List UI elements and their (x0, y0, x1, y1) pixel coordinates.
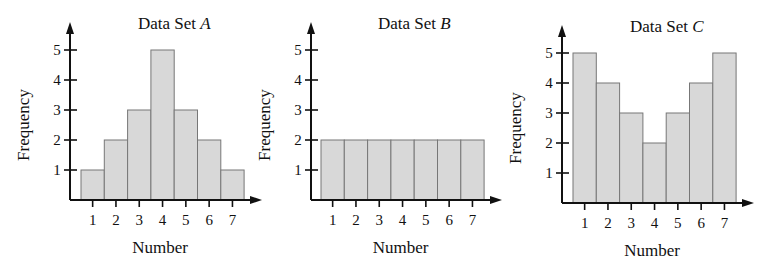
x-tick-label: 3 (136, 212, 144, 228)
bar (391, 140, 414, 200)
x-tick-label: 1 (89, 212, 97, 228)
x-tick-label: 5 (674, 215, 682, 231)
bar (596, 83, 619, 203)
x-tick-label: 5 (422, 212, 430, 228)
x-tick-label: 1 (329, 212, 337, 228)
chart-title: Data Set C (630, 17, 704, 36)
x-tick-label: 2 (112, 212, 120, 228)
chart-a: 123451234567Data Set ANumberFrequency (14, 14, 262, 257)
chart-b: 123451234567Data Set BNumberFrequency (255, 14, 502, 257)
x-tick-label: 7 (229, 212, 237, 228)
x-tick-label: 7 (469, 212, 477, 228)
bar (321, 140, 344, 200)
y-axis-label: Frequency (14, 89, 33, 161)
y-arrow-icon (558, 25, 566, 37)
histogram-panel: 123451234567Data Set ANumberFrequency123… (0, 0, 768, 268)
bar (128, 110, 151, 200)
bar (151, 50, 174, 200)
bar (713, 53, 736, 203)
bar (81, 170, 104, 200)
bar (461, 140, 484, 200)
x-axis-label: Number (132, 238, 188, 257)
y-axis-label: Frequency (506, 92, 525, 164)
x-tick-label: 4 (159, 212, 167, 228)
y-tick-label: 5 (53, 42, 61, 58)
bar (221, 170, 244, 200)
x-arrow-icon (742, 199, 754, 207)
x-tick-label: 6 (697, 215, 705, 231)
bar (174, 110, 197, 200)
y-arrow-icon (66, 22, 74, 34)
y-tick-label: 4 (53, 72, 61, 88)
y-tick-label: 4 (294, 72, 302, 88)
y-axis-label: Frequency (255, 89, 274, 161)
x-tick-label: 2 (352, 212, 360, 228)
x-tick-label: 3 (376, 212, 384, 228)
bar (573, 53, 596, 203)
x-arrow-icon (490, 196, 502, 204)
x-tick-label: 4 (399, 212, 407, 228)
x-tick-label: 7 (721, 215, 729, 231)
x-arrow-icon (250, 196, 262, 204)
chart-title: Data Set A (138, 14, 211, 33)
y-tick-label: 2 (545, 135, 553, 151)
x-tick-label: 5 (182, 212, 190, 228)
y-tick-label: 2 (53, 132, 61, 148)
y-tick-label: 1 (294, 162, 302, 178)
x-tick-label: 3 (628, 215, 636, 231)
y-tick-label: 1 (545, 165, 553, 181)
y-tick-label: 3 (53, 102, 61, 118)
y-tick-label: 3 (294, 102, 302, 118)
chart-title: Data Set B (378, 14, 451, 33)
y-arrow-icon (307, 22, 315, 34)
x-tick-label: 1 (581, 215, 589, 231)
y-tick-label: 3 (545, 105, 553, 121)
x-tick-label: 6 (445, 212, 453, 228)
y-tick-label: 1 (53, 162, 61, 178)
x-axis-label: Number (373, 238, 429, 257)
bar (643, 143, 666, 203)
bar (666, 113, 689, 203)
bar (438, 140, 461, 200)
x-axis-label: Number (624, 241, 680, 260)
y-tick-label: 4 (545, 75, 553, 91)
bar (620, 113, 643, 203)
bar (104, 140, 127, 200)
x-tick-label: 4 (651, 215, 659, 231)
y-tick-label: 5 (294, 42, 302, 58)
x-tick-label: 6 (205, 212, 213, 228)
bar (414, 140, 437, 200)
bar (198, 140, 221, 200)
bar (690, 83, 713, 203)
bar (368, 140, 391, 200)
y-tick-label: 2 (294, 132, 302, 148)
chart-c: 123451234567Data Set CNumberFrequency (506, 17, 754, 260)
bar (344, 140, 367, 200)
x-tick-label: 2 (604, 215, 612, 231)
y-tick-label: 5 (545, 45, 553, 61)
